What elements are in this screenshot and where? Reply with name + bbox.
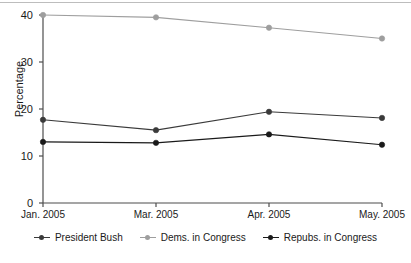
chart-legend: President Bush Dems. in Congress Repubs.… <box>0 232 411 244</box>
legend-marker-icon-president-bush <box>34 234 50 242</box>
y-tick-label-20: 20 <box>7 104 33 115</box>
y-tick-label-10: 10 <box>7 151 33 162</box>
x-tick-label-apr: Apr. 2005 <box>224 209 314 220</box>
x-tick-label-may: May. 2005 <box>337 209 411 220</box>
y-tick-label-30: 30 <box>7 57 33 68</box>
line-chart: Percentage 0 10 20 30 40 Jan. 2005 Mar. … <box>0 0 411 263</box>
x-tick-label-mar: Mar. 2005 <box>111 209 201 220</box>
legend-label-repubs-in-congress: Repubs. in Congress <box>284 232 377 244</box>
chart-canvas <box>0 0 411 263</box>
y-tick-label-40: 40 <box>7 10 33 21</box>
legend-label-dems-in-congress: Dems. in Congress <box>161 232 246 244</box>
legend-item-repubs-in-congress: Repubs. in Congress <box>263 232 377 244</box>
legend-marker-icon-repubs-in-congress <box>263 234 279 242</box>
legend-item-dems-in-congress: Dems. in Congress <box>140 232 246 244</box>
legend-item-president-bush: President Bush <box>34 232 123 244</box>
legend-marker-icon-dems-in-congress <box>140 234 156 242</box>
plot-area: Percentage 0 10 20 30 40 Jan. 2005 Mar. … <box>0 0 411 263</box>
x-tick-label-jan: Jan. 2005 <box>0 209 88 220</box>
y-tick-label-0: 0 <box>7 198 33 209</box>
legend-label-president-bush: President Bush <box>55 232 123 244</box>
